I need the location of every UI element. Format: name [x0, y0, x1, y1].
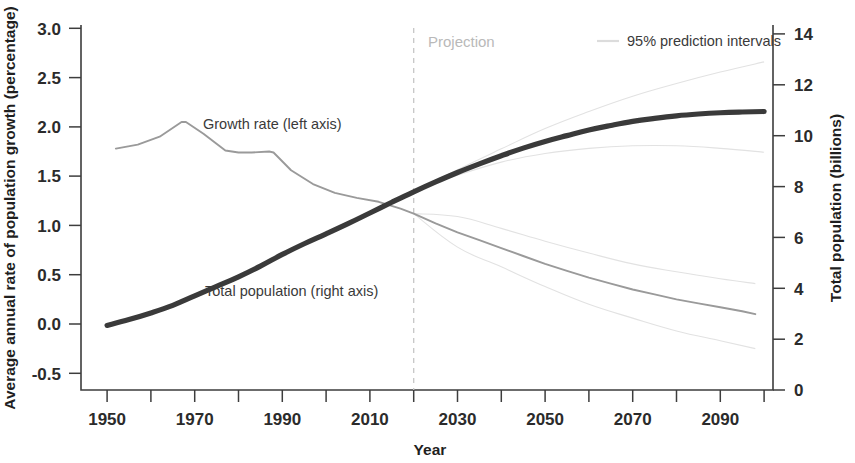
- x-tick-label: 1950: [88, 410, 126, 429]
- projection-label: Projection: [428, 33, 495, 50]
- y-right-tick-label: 0: [794, 381, 803, 400]
- y-axis-right-tick-labels: 14 12 10 8 6 4 2 0: [794, 25, 813, 400]
- plot-frame: [81, 25, 773, 390]
- growth-rate-annotation: Growth rate (left axis): [203, 116, 342, 132]
- y-axis-left-title: Average annual rate of population growth…: [1, 6, 18, 409]
- x-tick-label: 1970: [176, 410, 214, 429]
- x-axis-tick-labels: 1950 1970 1990 2010 2030 2050 2070 2090: [88, 410, 739, 429]
- y-left-tick-label: 1.5: [37, 167, 61, 186]
- total-population-annotation: Total population (right axis): [205, 283, 378, 299]
- y-right-tick-label: 6: [794, 229, 803, 248]
- x-tick-label: 2030: [439, 410, 477, 429]
- y-left-tick-label: 2.5: [37, 69, 61, 88]
- y-left-tick-label: 3.0: [37, 20, 61, 39]
- x-axis-ticks: [107, 390, 764, 402]
- x-tick-label: 2090: [701, 410, 739, 429]
- y-axis-right-ticks: [773, 34, 785, 390]
- y-right-tick-label: 4: [794, 280, 804, 299]
- x-tick-label: 1990: [263, 410, 301, 429]
- x-tick-label: 2010: [351, 410, 389, 429]
- x-tick-label: 2050: [526, 410, 564, 429]
- y-right-tick-label: 12: [794, 76, 813, 95]
- y-left-tick-label: 2.0: [37, 118, 61, 137]
- y-axis-left-ticks: [69, 28, 81, 373]
- y-right-tick-label: 14: [794, 25, 813, 44]
- y-left-tick-label: 0.5: [37, 266, 61, 285]
- y-left-tick-label: 1.0: [37, 217, 61, 236]
- chart-canvas: 3.0 2.5 2.0 1.5 1.0 0.5 0.0 -0.5 14 12 1…: [0, 0, 855, 463]
- y-right-tick-label: 2: [794, 330, 803, 349]
- x-tick-label: 2070: [614, 410, 652, 429]
- chart-figure: 3.0 2.5 2.0 1.5 1.0 0.5 0.0 -0.5 14 12 1…: [0, 0, 855, 463]
- y-left-tick-label: -0.5: [32, 365, 61, 384]
- prediction-interval-legend-label: 95% prediction intervals: [627, 33, 781, 49]
- y-right-tick-label: 10: [794, 127, 813, 146]
- y-axis-left-tick-labels: 3.0 2.5 2.0 1.5 1.0 0.5 0.0 -0.5: [32, 20, 61, 384]
- y-right-tick-label: 8: [794, 178, 803, 197]
- x-axis-title: Year: [414, 441, 447, 458]
- y-axis-right-title: Total population (billions): [827, 114, 844, 302]
- y-left-tick-label: 0.0: [37, 315, 61, 334]
